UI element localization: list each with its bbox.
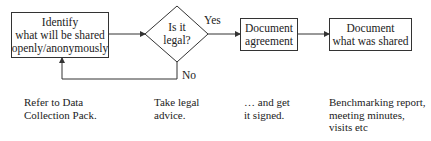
note-get-signed: … and get it signed.	[244, 96, 290, 121]
no-label: No	[182, 69, 196, 82]
arrow-no-loop-back	[62, 58, 177, 79]
note-3-line-1: … and get	[244, 96, 290, 109]
note-1-line-1: Refer to Data	[24, 96, 97, 109]
note-4-line-2: meeting minutes,	[329, 109, 426, 122]
agreement-line-1: Document	[245, 22, 293, 35]
identify-line-3: openly/anonymously	[12, 42, 108, 55]
shared-line-1: Document	[347, 22, 395, 35]
agreement-line-2: agreement	[245, 35, 293, 48]
note-2-line-1: Take legal	[154, 96, 199, 109]
decision-line-1: Is it	[152, 21, 202, 34]
shared-line-2: what was shared	[332, 35, 408, 48]
note-4-line-1: Benchmarking report,	[329, 96, 426, 109]
identify-line-1: Identify	[42, 16, 78, 29]
note-3-line-2: it signed.	[244, 109, 290, 122]
note-1-line-2: Collection Pack.	[24, 109, 97, 122]
document-agreement-box: Document agreement	[240, 18, 298, 51]
note-data-collection: Refer to Data Collection Pack.	[24, 96, 97, 121]
identify-line-2: what will be shared	[15, 29, 105, 42]
note-2-line-2: advice.	[154, 109, 199, 122]
note-4-line-3: visits etc	[329, 121, 426, 134]
document-shared-box: Document what was shared	[329, 18, 412, 51]
yes-label: Yes	[204, 14, 221, 27]
decision-line-2: legal?	[152, 34, 202, 47]
decision-label: Is it legal?	[152, 21, 202, 47]
identify-box: Identify what will be shared openly/anon…	[11, 12, 109, 58]
note-legal-advice: Take legal advice.	[154, 96, 199, 121]
note-benchmarking: Benchmarking report, meeting minutes, vi…	[329, 96, 426, 134]
